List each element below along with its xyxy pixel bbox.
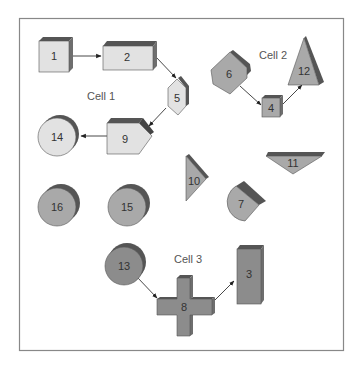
shape-5-label: 5	[174, 92, 180, 104]
shape-4[interactable]: 4	[262, 95, 283, 117]
shape-12-label: 12	[298, 65, 310, 77]
cell-3-label: Cell 3	[174, 253, 202, 265]
shape-2-label: 2	[124, 51, 130, 63]
shape-11-label: 11	[287, 157, 298, 169]
shape-8-label: 8	[181, 301, 187, 313]
shape-1[interactable]: 1	[39, 37, 73, 72]
cell-diagram: 1 2 5 9 14 Cell 1 6 4	[0, 0, 360, 365]
shape-2[interactable]: 2	[103, 41, 157, 70]
shape-6-label: 6	[226, 68, 232, 80]
shape-4-label: 4	[268, 102, 274, 114]
shape-15-label: 15	[121, 201, 133, 213]
shape-3-label: 3	[246, 268, 252, 280]
shape-10-label: 10	[188, 175, 200, 187]
cell-2-label: Cell 2	[259, 49, 287, 61]
shape-16-label: 16	[51, 201, 63, 213]
shape-13-label: 13	[118, 260, 130, 272]
shape-14-label: 14	[51, 131, 63, 143]
shape-1-label: 1	[51, 50, 57, 62]
shape-3[interactable]: 3	[237, 245, 264, 304]
shape-7-label: 7	[238, 198, 244, 210]
cell-1-label: Cell 1	[87, 90, 115, 102]
shape-9-label: 9	[122, 133, 128, 145]
